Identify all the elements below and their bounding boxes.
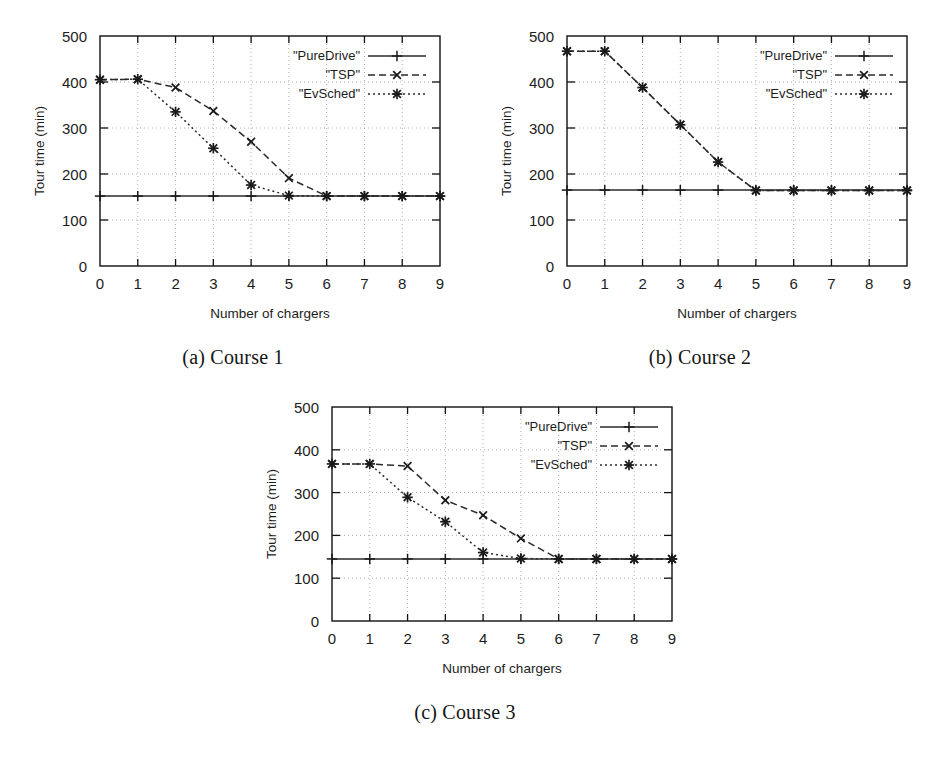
x-axis-title: Number of chargers [677, 306, 797, 321]
legend-sample [600, 442, 658, 450]
x-tick-label: 3 [676, 275, 684, 292]
legend-label: "TSP" [557, 438, 592, 453]
series-line [332, 464, 672, 559]
y-tick-label: 300 [294, 485, 319, 502]
y-tick-label: 100 [294, 570, 319, 587]
y-tick-label: 200 [62, 166, 87, 183]
legend-label: "PureDrive" [760, 48, 827, 63]
y-tick-label: 200 [294, 527, 319, 544]
y-tick-label: 300 [62, 120, 87, 137]
caption-course-2: (b) Course 2 [475, 346, 925, 369]
x-tick-label: 4 [479, 630, 487, 647]
series-asterisk [562, 46, 912, 196]
plot-course-1: 01234567890100200300400500Number of char… [8, 14, 458, 344]
x-tick-label: 7 [360, 275, 368, 292]
y-tick-label: 500 [62, 28, 87, 45]
legend-sample [600, 422, 658, 432]
legend-sample [368, 71, 426, 79]
chart-panel-course-1: 01234567890100200300400500Number of char… [8, 14, 458, 384]
figure-sheet: 01234567890100200300400500Number of char… [0, 0, 945, 783]
x-tick-label: 7 [827, 275, 835, 292]
series-line [100, 79, 440, 196]
legend-sample [368, 89, 426, 99]
plot-frame [567, 36, 907, 266]
x-tick-label: 6 [554, 630, 562, 647]
x-tick-label: 3 [441, 630, 449, 647]
legend-label: "EvSched" [299, 86, 361, 101]
legend-label: "TSP" [792, 67, 827, 82]
legend-label: "EvSched" [766, 86, 828, 101]
series-asterisk [95, 74, 445, 201]
x-tick-label: 5 [285, 275, 293, 292]
y-tick-label: 300 [529, 120, 554, 137]
series-cross [328, 460, 676, 563]
series-line [100, 79, 440, 196]
y-tick-label: 0 [79, 258, 87, 275]
x-tick-label: 7 [592, 630, 600, 647]
y-tick-label: 400 [62, 74, 87, 91]
x-tick-label: 8 [630, 630, 638, 647]
y-tick-label: 400 [294, 442, 319, 459]
legend-label: "PureDrive" [525, 419, 592, 434]
series-asterisk [327, 459, 677, 564]
y-tick-label: 500 [529, 28, 554, 45]
legend-sample [835, 51, 893, 61]
legend-label: "TSP" [325, 67, 360, 82]
legend-sample [835, 71, 893, 79]
x-tick-label: 0 [96, 275, 104, 292]
x-tick-label: 8 [865, 275, 873, 292]
y-axis-title: Tour time (min) [264, 469, 279, 559]
y-tick-label: 200 [529, 166, 554, 183]
legend-sample [368, 51, 426, 61]
series-line [332, 464, 672, 559]
x-tick-label: 5 [517, 630, 525, 647]
y-tick-label: 0 [546, 258, 554, 275]
plot-course-3: 01234567890100200300400500Number of char… [240, 385, 690, 699]
x-tick-label: 1 [366, 630, 374, 647]
legend-label: "EvSched" [531, 457, 593, 472]
x-tick-label: 2 [403, 630, 411, 647]
y-tick-label: 500 [294, 399, 319, 416]
x-tick-label: 4 [714, 275, 722, 292]
x-tick-label: 3 [209, 275, 217, 292]
series-line [567, 51, 907, 190]
caption-course-1: (a) Course 1 [8, 346, 458, 369]
caption-course-3: (c) Course 3 [240, 701, 690, 724]
x-tick-label: 9 [668, 630, 676, 647]
x-axis-title: Number of chargers [442, 661, 562, 676]
legend-label: "PureDrive" [293, 48, 360, 63]
series-cross [96, 75, 444, 200]
x-tick-label: 5 [752, 275, 760, 292]
chart-panel-course-3: 01234567890100200300400500Number of char… [240, 385, 690, 755]
x-axis-title: Number of chargers [210, 306, 330, 321]
chart-panel-course-2: 01234567890100200300400500Number of char… [475, 14, 925, 384]
y-tick-label: 100 [62, 212, 87, 229]
y-tick-label: 100 [529, 212, 554, 229]
x-tick-label: 1 [134, 275, 142, 292]
y-tick-label: 0 [311, 613, 319, 630]
x-tick-label: 0 [328, 630, 336, 647]
x-tick-label: 2 [171, 275, 179, 292]
series-cross [563, 47, 911, 194]
x-tick-label: 9 [903, 275, 911, 292]
x-tick-label: 9 [436, 275, 444, 292]
series-line [567, 51, 907, 190]
legend-sample [600, 460, 658, 470]
x-tick-label: 6 [322, 275, 330, 292]
x-tick-label: 2 [638, 275, 646, 292]
x-tick-label: 4 [247, 275, 255, 292]
legend-sample [835, 89, 893, 99]
plot-frame [100, 36, 440, 266]
y-axis-title: Tour time (min) [499, 106, 514, 196]
y-tick-label: 400 [529, 74, 554, 91]
x-tick-label: 1 [601, 275, 609, 292]
x-tick-label: 8 [398, 275, 406, 292]
plot-frame [332, 407, 672, 621]
plot-course-2: 01234567890100200300400500Number of char… [475, 14, 925, 344]
x-tick-label: 6 [789, 275, 797, 292]
x-tick-label: 0 [563, 275, 571, 292]
y-axis-title: Tour time (min) [32, 106, 47, 196]
